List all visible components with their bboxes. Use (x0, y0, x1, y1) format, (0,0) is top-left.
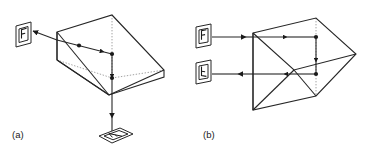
panel-b-object-plate (196, 24, 211, 48)
panel-b-label: (b) (203, 129, 215, 140)
panel-b-image-plate (196, 60, 211, 84)
panel-a-label: (a) (12, 129, 24, 140)
panel-a-rays (33, 31, 114, 131)
ray-node (77, 43, 81, 47)
ray-node (110, 52, 114, 56)
prism-ray-diagram: (a) (0, 0, 373, 154)
panel-b: (b) (196, 18, 356, 140)
ray-node (314, 72, 318, 76)
panel-a-hidden-edges (57, 15, 164, 78)
ray-node (314, 35, 318, 39)
figure-canvas: (a) (0, 0, 373, 154)
ray-node (110, 76, 114, 80)
panel-a-image-plate (99, 128, 133, 143)
panel-b-rays (212, 35, 318, 76)
panel-b-prism-body (253, 18, 356, 110)
panel-a: (a) (12, 15, 164, 143)
panel-a-object-plate (16, 22, 31, 47)
